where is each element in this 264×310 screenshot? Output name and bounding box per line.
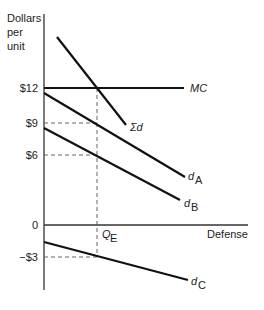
demand-b-line xyxy=(44,128,180,200)
demand-c-line xyxy=(44,242,188,280)
y-axis-label-line1: Dollars xyxy=(7,12,42,24)
y-tick-neg3: −$3 xyxy=(19,251,38,263)
y-axis-label-line3: unit xyxy=(7,40,25,52)
demand-a-subscript: A xyxy=(195,174,203,186)
demand-b-subscript: B xyxy=(191,201,198,213)
y-tick-12: $12 xyxy=(20,82,38,94)
public-good-demand-chart: Dollars per unit $12 $9 $6 0 −$3 MC Σd d… xyxy=(0,0,264,310)
y-tick-6: $6 xyxy=(26,149,38,161)
demand-c-subscript: C xyxy=(198,279,206,291)
demand-c-label: d xyxy=(191,275,198,287)
demand-a-label: d xyxy=(188,170,195,182)
x-axis-label: Defense xyxy=(207,228,248,240)
qe-subscript: E xyxy=(110,232,117,244)
sum-demand-line xyxy=(57,37,126,125)
demand-b-label: d xyxy=(184,197,191,209)
sum-demand-label: Σd xyxy=(129,121,144,133)
y-tick-9: $9 xyxy=(26,117,38,129)
mc-label: MC xyxy=(190,82,207,94)
y-tick-0: 0 xyxy=(32,219,38,231)
dashed-guides xyxy=(44,88,97,257)
y-axis-label-line2: per xyxy=(7,26,23,38)
